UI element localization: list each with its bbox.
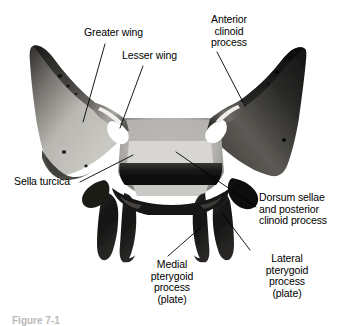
label-lateral-pterygoid-process: Lateral pterygoid process (plate) <box>254 253 320 299</box>
label-dorsum-sellae-and-posterior-clinoid-process: Dorsum sellae and posterior clinoid proc… <box>259 192 343 227</box>
figure-caption-fragment: Figure 7-1 <box>12 315 60 326</box>
leader-line-anterior-clinoid <box>217 52 245 106</box>
label-lesser-wing: Lesser wing <box>122 50 177 62</box>
leader-line-medial-pterygoid <box>168 228 200 256</box>
sphenoid-bone-figure: Greater wing Lesser wing Anterior clinoi… <box>0 0 345 326</box>
label-greater-wing: Greater wing <box>84 27 143 39</box>
leader-line-lateral-pterygoid <box>222 213 250 250</box>
figure-page: Greater wing Lesser wing Anterior clinoi… <box>0 0 345 326</box>
label-medial-pterygoid-process: Medial pterygoid process (plate) <box>139 259 205 305</box>
leader-line-dorsum-sellae <box>176 152 256 207</box>
label-sella-turcica: Sella turcica <box>14 176 70 188</box>
label-anterior-clinoid-process: Anterior clinoid process <box>196 14 262 49</box>
leader-line-sella-turcica <box>80 155 133 182</box>
leader-line-greater-wing <box>83 44 105 122</box>
leader-line-lesser-wing <box>120 66 143 128</box>
